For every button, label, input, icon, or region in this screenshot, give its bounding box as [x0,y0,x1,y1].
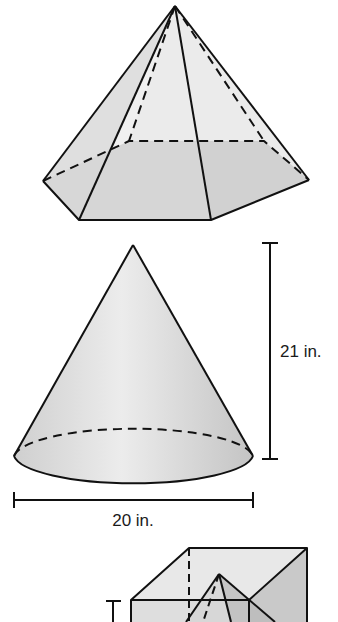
cone [14,245,253,483]
cone-height-dimension [262,243,278,459]
cone-diameter-dimension [14,492,253,508]
cone-height-label: 21 in. [280,342,322,361]
hexagonal-pyramid [43,6,309,220]
cone-diameter-label: 20 in. [112,511,154,530]
cube-with-pyramid [106,548,307,622]
geometry-diagram: 21 in. 20 in. [0,0,338,622]
cone-surface [14,245,253,483]
cube-height-dimension [106,601,121,622]
